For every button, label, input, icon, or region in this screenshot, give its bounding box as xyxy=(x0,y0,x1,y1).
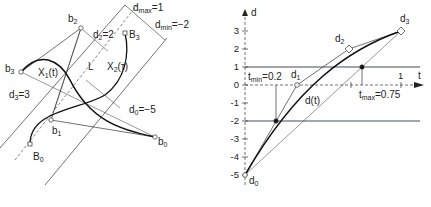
point-b0 xyxy=(153,135,157,139)
y-axis-label: d xyxy=(251,7,257,18)
point-b3 xyxy=(19,70,23,74)
svg-text:1: 1 xyxy=(234,61,239,72)
label-d2: d2 xyxy=(335,33,345,45)
tmin-intersection xyxy=(274,119,278,123)
d0-distance xyxy=(86,80,120,108)
label-d3: d3=3 xyxy=(9,89,30,101)
point-B3 xyxy=(123,31,127,35)
label-L: L xyxy=(88,61,94,72)
label-d0: d0 xyxy=(249,175,259,187)
label-d0: d0=−5 xyxy=(129,104,156,116)
svg-text:-5: -5 xyxy=(231,169,239,180)
label-b1: b1 xyxy=(52,125,62,137)
y-tick-labels: 3 2 1 0 -1 -2 -3 -4 -5 xyxy=(231,25,239,180)
x-tick-label-1: 1 xyxy=(398,70,403,81)
label-dmin: dmin=−2 xyxy=(155,19,190,31)
label-tmin: tmin=0.2 xyxy=(248,71,282,83)
left-labels: b0 b1 b2 b3 B0 B3 X1(t) X2(τ) L d0=−5 d2… xyxy=(5,2,190,163)
svg-text:0: 0 xyxy=(234,79,239,90)
label-tmax: tmax=0.75 xyxy=(359,89,401,101)
label-b0: b0 xyxy=(158,136,168,148)
point-B0 xyxy=(28,142,32,146)
figure: b0 b1 b2 b3 B0 B3 X1(t) X2(τ) L d0=−5 d2… xyxy=(0,0,431,207)
label-d2: d2=2 xyxy=(93,29,114,41)
line-L xyxy=(15,5,137,160)
label-X2: X2(τ) xyxy=(107,61,128,73)
svg-text:-4: -4 xyxy=(231,151,239,162)
svg-text:3: 3 xyxy=(234,25,239,36)
curve-X2 xyxy=(30,33,127,144)
label-B3: B3 xyxy=(129,29,140,41)
control-polygon-b xyxy=(21,28,155,137)
label-b2: b2 xyxy=(68,13,78,25)
label-B0: B0 xyxy=(33,151,44,163)
label-curve-d-t: d(t) xyxy=(305,95,320,106)
point-b1 xyxy=(49,118,53,122)
x-axis-label: t xyxy=(418,70,421,81)
x-axis-arrow-icon xyxy=(414,82,424,88)
label-d3: d3 xyxy=(400,13,410,25)
point-d2 xyxy=(345,45,353,53)
point-d1 xyxy=(295,83,300,88)
point-b2 xyxy=(79,26,83,30)
svg-text:-3: -3 xyxy=(231,133,239,144)
svg-text:-1: -1 xyxy=(231,97,239,108)
dmax-line xyxy=(0,5,125,148)
b2-line xyxy=(54,28,81,110)
svg-text:2: 2 xyxy=(234,43,239,54)
tmax-intersection xyxy=(360,65,364,69)
svg-text:-2: -2 xyxy=(231,115,239,126)
label-dmax: dmax=1 xyxy=(133,2,164,14)
label-d1: d1 xyxy=(291,69,301,81)
y-axis-arrow-icon xyxy=(242,9,248,16)
point-d0 xyxy=(243,173,248,178)
chord-d0-d3 xyxy=(245,31,401,175)
label-b3: b3 xyxy=(5,63,15,75)
label-X1: X1(t) xyxy=(38,67,58,79)
